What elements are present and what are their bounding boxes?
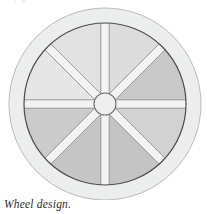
wheel-design-figure (0, 0, 207, 200)
spoke-1 (105, 100, 188, 108)
spoke-7 (101, 21, 109, 104)
spoke-3 (101, 104, 109, 187)
figure-caption: Wheel design. (4, 197, 71, 211)
spoke-5 (22, 100, 105, 108)
wheel-hub (94, 93, 116, 115)
scanned-page: f g Wheel design. (0, 0, 207, 214)
wheel-diagram (0, 0, 207, 200)
